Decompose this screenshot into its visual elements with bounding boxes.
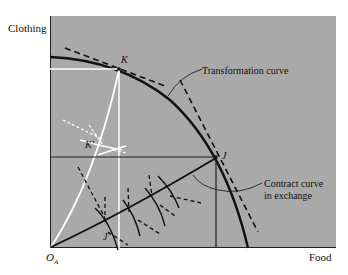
transformation-curve-label: Transformation curve — [202, 65, 289, 76]
pointer-transformation-curve — [168, 69, 202, 96]
tangent-line-j — [180, 80, 258, 232]
y-axis-label: Clothing — [8, 22, 47, 34]
point-j-marker — [214, 155, 218, 159]
point-j-prime-label: J′ — [103, 231, 110, 242]
point-k-prime-label: K′ — [85, 139, 94, 150]
origin-label: OA — [46, 251, 58, 266]
origin-letter: O — [46, 251, 54, 263]
point-j-label: J — [222, 150, 226, 161]
production-exchange-diagram — [0, 0, 348, 275]
indiff-dashed-2b — [138, 220, 160, 234]
tangent-line-k — [65, 48, 165, 86]
indiff-dashed-3b — [160, 205, 175, 216]
point-k-label: K — [121, 54, 128, 65]
origin-subscript: A — [54, 258, 58, 266]
transformation-curve — [50, 57, 248, 248]
x-axis-label: Food — [309, 251, 332, 263]
point-k-marker — [117, 67, 121, 71]
indiff-dashed-1c — [108, 232, 128, 245]
contract-curve-label-line1: Contract curve — [264, 178, 323, 190]
indiff-dashed-1a — [78, 167, 105, 218]
indiff-dashed-kprime-a — [63, 120, 104, 140]
contract-curve-k — [51, 70, 119, 247]
contract-curve-label: Contract curve in exchange — [264, 178, 323, 202]
contract-curve-label-line2: in exchange — [264, 190, 323, 202]
